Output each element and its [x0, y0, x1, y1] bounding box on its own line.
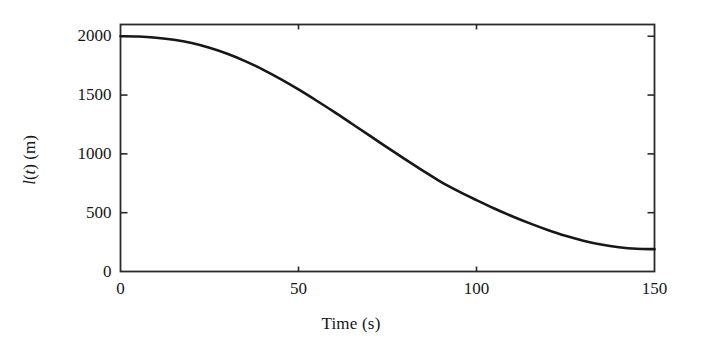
figure-plot: l(t) (m) Time (s) 0500100015002000 05010…: [0, 0, 702, 359]
x-tick-label: 50: [290, 279, 307, 299]
y-tick-label: 500: [40, 203, 112, 223]
y-axis-label-text: l(t) (m): [20, 135, 40, 185]
y-tick-label: 1500: [40, 85, 112, 105]
y-tick-label: 0: [40, 262, 112, 282]
y-tick-label: 1000: [40, 144, 112, 164]
x-tick-label: 0: [116, 279, 125, 299]
data-curve: [121, 36, 655, 249]
chart-canvas: [0, 0, 702, 359]
x-axis-label: Time (s): [0, 314, 702, 334]
x-tick-label: 100: [464, 279, 490, 299]
x-tick-label: 150: [642, 279, 668, 299]
y-tick-label: 2000: [40, 26, 112, 46]
